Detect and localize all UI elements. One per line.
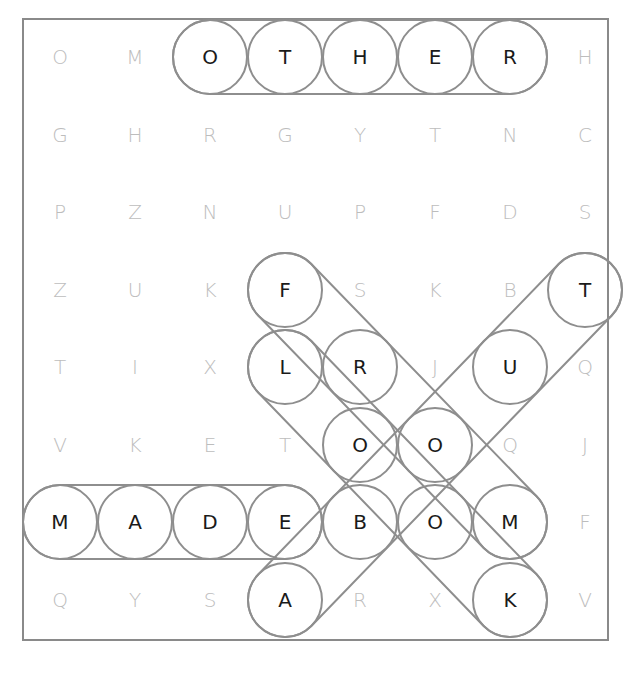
grid-cell-r6-c5[interactable]: O — [427, 510, 443, 534]
grid-cell-r1-c5[interactable]: T — [429, 123, 441, 147]
grid-cell-r2-c6[interactable]: D — [502, 200, 517, 224]
grid-cell-r4-c3[interactable]: L — [279, 355, 291, 379]
grid-cell-r7-c7[interactable]: V — [578, 588, 592, 612]
grid-cell-r0-c2[interactable]: O — [202, 45, 218, 69]
grid-cell-r6-c4[interactable]: B — [353, 510, 367, 534]
grid-cell-r0-c4[interactable]: H — [352, 45, 367, 69]
grid-cell-r1-c4[interactable]: Y — [354, 123, 366, 147]
grid-cell-r3-c2[interactable]: K — [203, 278, 216, 302]
found-letter-rings — [23, 20, 622, 637]
grid-cell-r0-c3[interactable]: T — [278, 45, 292, 69]
grid-cell-r2-c0[interactable]: P — [54, 200, 66, 224]
grid-cell-r0-c5[interactable]: E — [429, 45, 442, 69]
grid-cell-r7-c3[interactable]: A — [278, 588, 292, 612]
grid-cell-r6-c1[interactable]: A — [128, 510, 142, 534]
grid-cell-r7-c6[interactable]: K — [503, 588, 517, 612]
grid-cell-r4-c5[interactable]: J — [432, 355, 438, 379]
grid-cell-r5-c4[interactable]: O — [352, 433, 368, 457]
grid-cell-r4-c6[interactable]: U — [503, 355, 518, 379]
grid-cell-r7-c2[interactable]: S — [204, 588, 217, 612]
grid-cell-r3-c1[interactable]: U — [128, 278, 143, 302]
grid-frame — [23, 19, 608, 640]
grid-cell-r1-c6[interactable]: N — [503, 123, 518, 147]
grid-cell-r6-c3[interactable]: E — [279, 510, 292, 534]
grid-cell-r6-c6[interactable]: M — [501, 510, 518, 534]
grid-cell-r0-c1[interactable]: M — [126, 45, 143, 69]
grid-cell-r4-c2[interactable]: X — [203, 355, 217, 379]
grid-cell-r2-c1[interactable]: Z — [128, 200, 142, 224]
grid-cell-r4-c7[interactable]: Q — [577, 355, 593, 379]
grid-cell-r1-c0[interactable]: G — [52, 123, 68, 147]
grid-cell-r7-c4[interactable]: R — [353, 588, 367, 612]
grid-cell-r5-c2[interactable]: E — [204, 433, 217, 457]
grid-cell-r7-c0[interactable]: Q — [52, 588, 68, 612]
grid-cell-r4-c4[interactable]: R — [353, 355, 367, 379]
grid-cell-r2-c4[interactable]: P — [354, 200, 366, 224]
word-search-board: OMOTHERHGHRGYTNCPZNUPFDSZUKFSKBTTIXLRJUQ… — [0, 0, 636, 682]
grid-cell-r3-c6[interactable]: B — [503, 278, 516, 302]
grid-cell-r0-c6[interactable]: R — [503, 45, 517, 69]
grid-cell-r2-c7[interactable]: S — [579, 200, 592, 224]
grid-cell-r3-c7[interactable]: T — [578, 278, 592, 302]
grid-cell-r1-c7[interactable]: C — [578, 123, 592, 147]
grid-cell-r3-c5[interactable]: K — [428, 278, 441, 302]
grid-cell-r5-c7[interactable]: J — [582, 433, 588, 457]
grid-cell-r1-c3[interactable]: G — [277, 123, 293, 147]
grid-cell-r0-c7[interactable]: H — [577, 45, 592, 69]
grid-cell-r0-c0[interactable]: O — [52, 45, 68, 69]
grid-cell-r4-c1[interactable]: I — [132, 355, 138, 379]
grid-cell-r2-c3[interactable]: U — [278, 200, 293, 224]
grid-cell-r5-c1[interactable]: K — [128, 433, 141, 457]
grid-cell-r6-c7[interactable]: F — [579, 510, 591, 534]
grid-cell-r5-c0[interactable]: V — [53, 433, 67, 457]
grid-cell-r5-c3[interactable]: T — [279, 433, 291, 457]
grid-cell-r6-c2[interactable]: D — [202, 510, 217, 534]
grid-cell-r7-c5[interactable]: X — [428, 588, 442, 612]
grid-cell-r5-c5[interactable]: O — [427, 433, 443, 457]
grid-cell-r3-c0[interactable]: Z — [53, 278, 67, 302]
found-word-highlights — [23, 20, 622, 637]
grid-cell-r6-c0[interactable]: M — [51, 510, 68, 534]
grid-cell-r7-c1[interactable]: Y — [129, 588, 141, 612]
grid-cell-r2-c2[interactable]: N — [203, 200, 218, 224]
grid-cell-r1-c1[interactable]: H — [127, 123, 142, 147]
grid-cell-r5-c6[interactable]: Q — [502, 433, 518, 457]
grid-cell-r1-c2[interactable]: R — [203, 123, 217, 147]
grid-cell-r3-c3[interactable]: F — [279, 278, 291, 302]
grid-cell-r2-c5[interactable]: F — [429, 200, 441, 224]
grid-cell-r3-c4[interactable]: S — [354, 278, 367, 302]
grid-cell-r4-c0[interactable]: T — [54, 355, 66, 379]
